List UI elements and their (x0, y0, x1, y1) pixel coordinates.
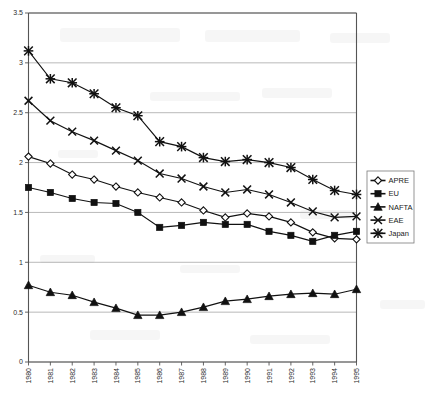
data-point (220, 157, 230, 167)
legend-item-label: APRE (389, 176, 409, 185)
x-axis-tick-label: 1991 (266, 368, 273, 384)
data-point (25, 184, 31, 190)
data-point (286, 163, 296, 173)
data-point (89, 89, 99, 99)
x-axis-tick-label: 1995 (353, 368, 360, 384)
data-point (200, 207, 207, 214)
data-point (113, 200, 119, 206)
x-axis-tick-label: 1984 (113, 368, 120, 384)
data-point (47, 189, 53, 195)
chart-canvas: 00.511.522.533.5 19801981198219831984198… (0, 0, 434, 400)
data-point (287, 219, 294, 226)
data-point (308, 175, 318, 185)
data-point (156, 170, 164, 178)
data-point (264, 158, 274, 168)
x-axis-tick-label: 1994 (331, 368, 338, 384)
y-axis-tick-labels: 00.511.522.533.5 (13, 9, 23, 365)
data-point (178, 222, 184, 228)
y-axis-tick-label: 1 (19, 259, 23, 266)
data-point (134, 157, 142, 165)
x-axis-tick-label: 1993 (309, 368, 316, 384)
legend-item-label: EU (389, 189, 399, 198)
data-point (222, 221, 228, 227)
y-axis-tick-label: 3 (19, 59, 23, 66)
x-axis-tick-label: 1989 (222, 368, 229, 384)
x-axis-tick-label: 1988 (200, 368, 207, 384)
x-axis-tick-label: 1987 (178, 368, 185, 384)
x-axis-tick-label: 1990 (244, 368, 251, 384)
data-point (91, 199, 97, 205)
data-point (222, 214, 229, 221)
data-point (91, 176, 98, 183)
x-axis-tick-labels: 1980198119821983198419851986198719881989… (25, 368, 360, 384)
x-axis-tick-label: 1982 (69, 368, 76, 384)
chart-legend: APREEUNAFTAEAEJapan (367, 171, 414, 243)
data-point (177, 142, 187, 152)
data-point (265, 191, 273, 199)
data-point (353, 236, 360, 243)
legend-item-label: Japan (389, 229, 409, 238)
data-point (373, 228, 383, 238)
y-axis-tick-label: 3.5 (13, 9, 23, 16)
data-point (266, 228, 272, 234)
data-point (244, 221, 250, 227)
axes-group (25, 13, 357, 366)
data-point (156, 194, 163, 201)
y-axis-tick-label: 2.5 (13, 109, 23, 116)
series-nafta (24, 281, 360, 319)
data-point (90, 137, 98, 145)
data-point (134, 189, 141, 196)
data-point (155, 137, 165, 147)
y-axis-tick-label: 0 (19, 358, 23, 365)
data-point (46, 74, 56, 84)
data-point (265, 213, 272, 220)
data-point (242, 155, 252, 165)
y-axis-tick-label: 0.5 (13, 309, 23, 316)
data-point (352, 190, 362, 200)
x-axis-tick-label: 1981 (47, 368, 54, 384)
line-chart: 00.511.522.533.5 19801981198219831984198… (0, 0, 434, 400)
data-point (133, 111, 143, 121)
data-point (135, 209, 141, 215)
x-axis-tick-label: 1985 (134, 368, 141, 384)
data-point (288, 232, 294, 238)
data-point (157, 224, 163, 230)
data-point (353, 228, 359, 234)
legend-item-label: NAFTA (389, 203, 413, 212)
x-axis-tick-label: 1986 (156, 368, 163, 384)
data-point (24, 281, 32, 289)
y-axis-tick-label: 2 (19, 159, 23, 166)
data-point (332, 232, 338, 238)
data-point (200, 183, 208, 191)
data-point (112, 183, 119, 190)
x-axis-tick-label: 1992 (288, 368, 295, 384)
data-point (178, 175, 186, 183)
data-point (67, 78, 77, 88)
legend-item-label: EAE (389, 216, 404, 225)
data-point (69, 195, 75, 201)
data-point (200, 219, 206, 225)
data-point (352, 285, 360, 293)
x-axis-tick-label: 1983 (91, 368, 98, 384)
data-point (199, 153, 209, 163)
data-point (287, 199, 295, 207)
data-point (310, 238, 316, 244)
series-eae (25, 97, 361, 221)
data-point (47, 160, 54, 167)
x-axis-tick-label: 1980 (25, 368, 32, 384)
y-axis-tick-label: 1.5 (13, 209, 23, 216)
data-point (69, 171, 76, 178)
data-point (244, 210, 251, 217)
data-point (111, 103, 121, 113)
data-point (46, 117, 54, 125)
data-point (375, 191, 381, 197)
data-point (178, 199, 185, 206)
data-point (24, 46, 34, 56)
data-point (330, 186, 340, 196)
data-point (25, 153, 32, 160)
data-point (112, 147, 120, 155)
series-group (24, 46, 362, 319)
data-point (309, 229, 316, 236)
data-point (68, 128, 76, 136)
